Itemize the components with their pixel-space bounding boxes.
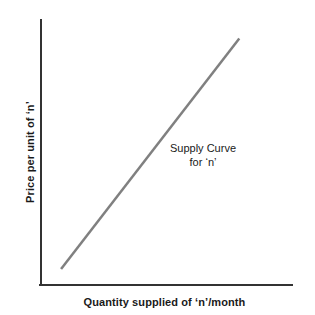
y-axis-label: Price per unit of ‘n’ [24, 67, 36, 237]
supply-curve-annotation-line1: Supply Curve [170, 142, 236, 154]
supply-curve-annotation: Supply Curve for ‘n’ [152, 141, 254, 169]
x-axis-label: Quantity supplied of ‘n’/month [0, 296, 315, 308]
supply-curve-annotation-line2: for ‘n’ [190, 156, 217, 168]
supply-curve-figure: Supply Curve for ‘n’ Price per unit of ‘… [0, 0, 315, 315]
